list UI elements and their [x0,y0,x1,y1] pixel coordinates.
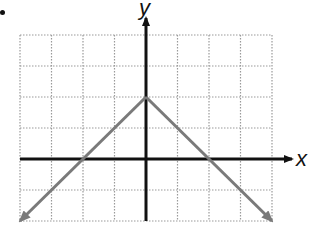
coordinate-plane [0,0,313,229]
y-axis-label: y [139,0,150,19]
x-axis-label: x [296,148,307,170]
